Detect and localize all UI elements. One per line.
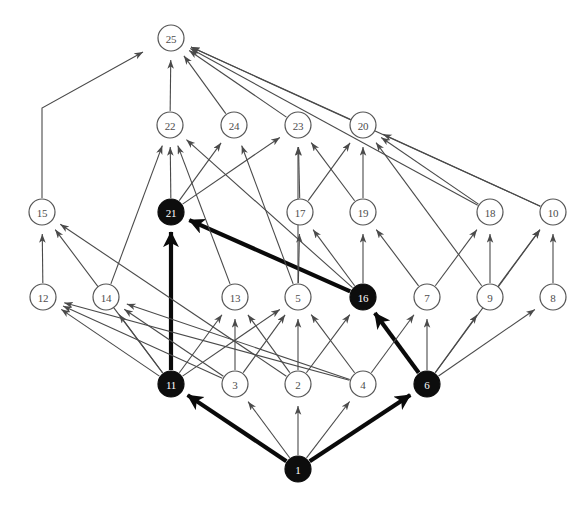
- edge-4-to-5: [311, 315, 354, 373]
- node-23[interactable]: 23: [285, 112, 311, 138]
- node-14[interactable]: 14: [93, 284, 119, 310]
- graph-canvas: 1234567891011121314151617181920212223242…: [0, 0, 587, 507]
- node-6[interactable]: 6: [414, 371, 440, 397]
- node-label-16: 16: [358, 292, 369, 304]
- node-9[interactable]: 9: [477, 284, 503, 310]
- node-label-11: 11: [166, 379, 176, 391]
- node-20[interactable]: 20: [350, 112, 376, 138]
- node-10[interactable]: 10: [540, 199, 566, 225]
- node-11[interactable]: 11: [158, 371, 184, 397]
- node-label-18: 18: [485, 207, 496, 219]
- node-label-21: 21: [166, 207, 177, 219]
- node-label-3: 3: [232, 379, 238, 391]
- node-label-12: 12: [38, 292, 49, 304]
- edge-7-to-18: [435, 230, 477, 286]
- edge-15-to-25: [42, 52, 143, 198]
- node-label-10: 10: [548, 207, 559, 219]
- edge-12-to-15: [42, 234, 43, 283]
- edge-3-to-14: [124, 309, 223, 376]
- node-label-15: 15: [37, 207, 48, 219]
- edge-6-to-16: [375, 313, 419, 373]
- node-label-6: 6: [424, 379, 430, 391]
- edge-1-to-11: [188, 395, 287, 461]
- node-label-25: 25: [166, 33, 177, 45]
- edge-21-to-23: [183, 137, 280, 204]
- edge-3-to-5: [243, 315, 285, 373]
- node-12[interactable]: 12: [30, 284, 56, 310]
- node-label-8: 8: [550, 292, 556, 304]
- node-label-19: 19: [358, 207, 369, 219]
- node-label-13: 13: [230, 292, 241, 304]
- node-label-1: 1: [295, 464, 300, 476]
- node-label-4: 4: [360, 379, 366, 391]
- edge-7-to-19: [376, 230, 418, 286]
- node-1[interactable]: 1: [285, 456, 311, 482]
- graph-figure: 1234567891011121314151617181920212223242…: [0, 0, 587, 507]
- edge-4-to-7: [371, 315, 414, 373]
- node-16[interactable]: 16: [350, 284, 376, 310]
- node-25[interactable]: 25: [158, 25, 184, 51]
- node-24[interactable]: 24: [221, 112, 247, 138]
- node-4[interactable]: 4: [350, 371, 376, 397]
- edge-14-to-22: [111, 146, 162, 284]
- node-17[interactable]: 17: [287, 199, 313, 225]
- edge-17-to-23: [299, 147, 300, 198]
- edge-layer: [42, 47, 553, 461]
- edge-9-to-20: [376, 143, 482, 286]
- node-label-5: 5: [295, 292, 301, 304]
- node-2[interactable]: 2: [285, 371, 311, 397]
- node-label-22: 22: [165, 120, 176, 132]
- edge-4-to-14: [127, 304, 350, 379]
- edge-9-to-10: [498, 230, 540, 286]
- node-label-2: 2: [295, 379, 300, 391]
- node-21[interactable]: 21: [158, 199, 184, 225]
- node-22[interactable]: 22: [157, 112, 183, 138]
- node-18[interactable]: 18: [477, 199, 503, 225]
- node-label-9: 9: [487, 292, 493, 304]
- edge-21-to-22: [170, 147, 171, 198]
- node-5[interactable]: 5: [285, 284, 311, 310]
- node-7[interactable]: 7: [414, 284, 440, 310]
- edge-2-to-16: [306, 315, 349, 373]
- edge-19-to-23: [311, 143, 354, 201]
- node-3[interactable]: 3: [222, 371, 248, 397]
- node-label-20: 20: [358, 120, 369, 132]
- node-label-17: 17: [295, 207, 306, 219]
- node-19[interactable]: 19: [350, 199, 376, 225]
- edge-16-to-21: [189, 220, 350, 291]
- node-15[interactable]: 15: [29, 199, 55, 225]
- node-label-14: 14: [101, 292, 112, 304]
- edge-5-to-24: [242, 146, 293, 284]
- edge-6-to-8: [439, 310, 535, 377]
- edge-1-to-6: [310, 395, 411, 461]
- node-label-24: 24: [229, 120, 240, 132]
- node-8[interactable]: 8: [540, 284, 566, 310]
- node-label-23: 23: [293, 120, 304, 132]
- edge-16-to-22: [186, 140, 352, 288]
- edge-4-to-12: [64, 303, 349, 381]
- edge-22-to-25: [170, 60, 171, 111]
- edge-17-to-20: [308, 143, 350, 201]
- node-label-7: 7: [424, 292, 430, 304]
- node-13[interactable]: 13: [222, 284, 248, 310]
